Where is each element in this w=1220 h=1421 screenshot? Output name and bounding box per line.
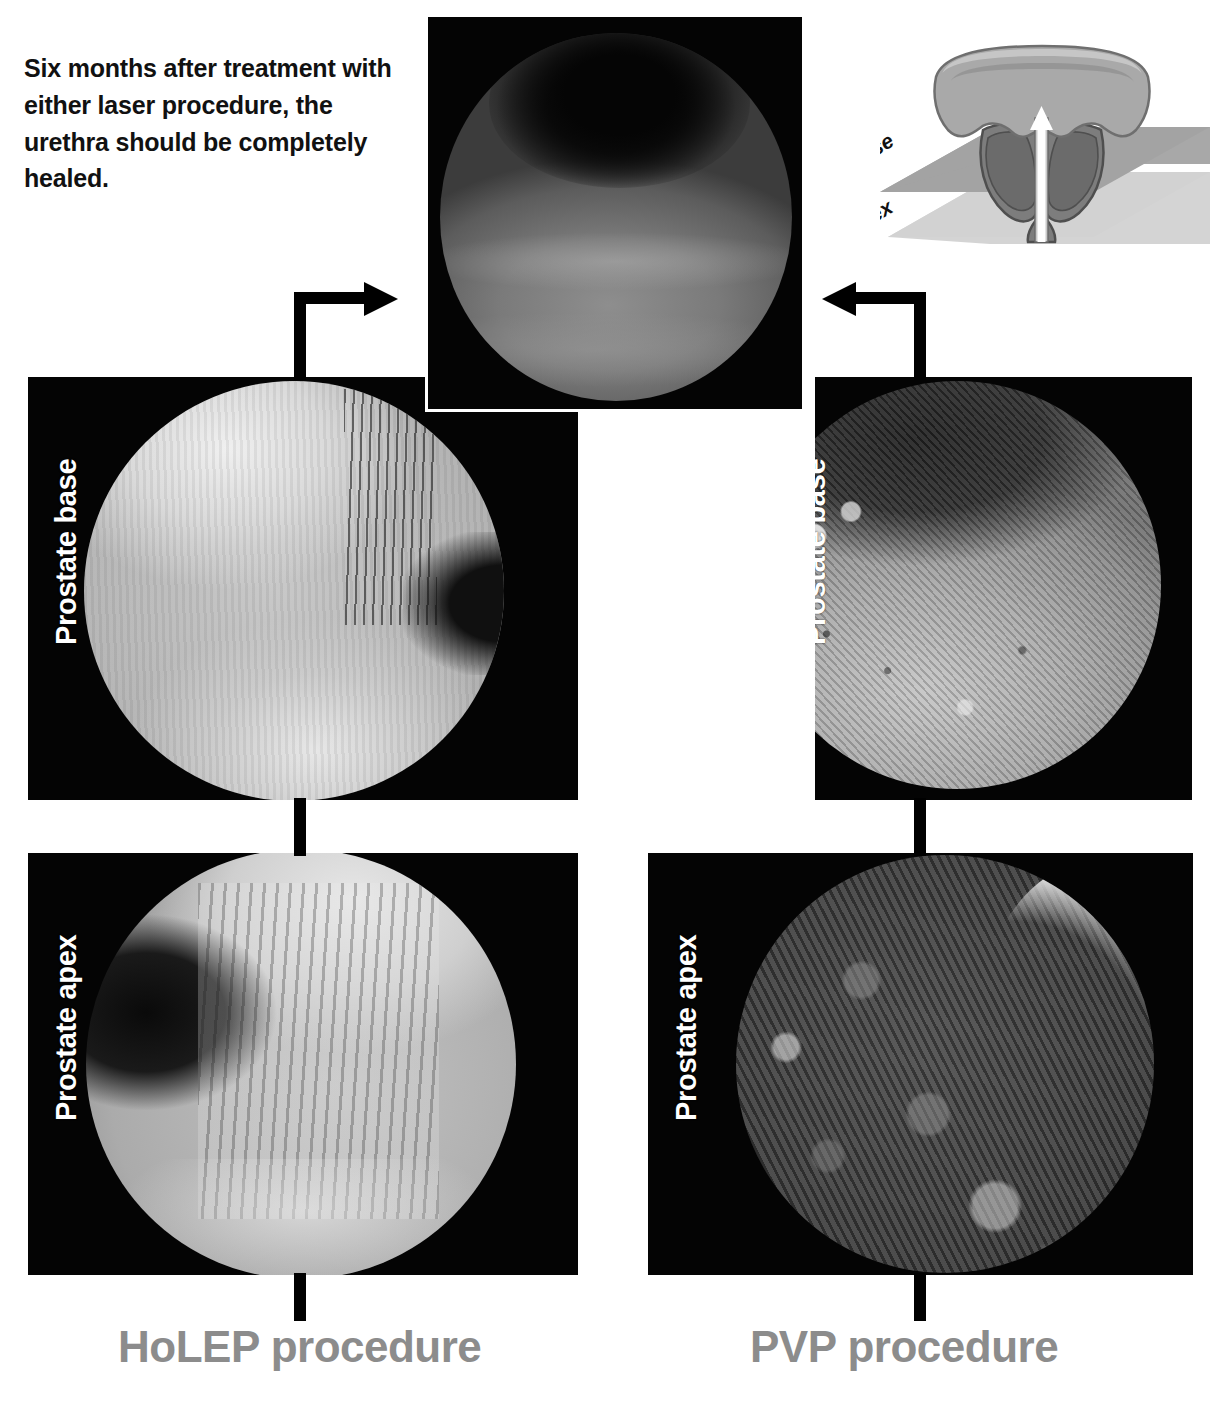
connector-pvp-horizontal xyxy=(856,292,926,304)
procedure-label-holep: HoLEP procedure xyxy=(118,1322,481,1372)
connector-pvp-apex-to-label xyxy=(914,1273,926,1321)
panel-pvp-prostate-base: Prostate base xyxy=(815,377,1192,800)
connector-holep-apex-to-label xyxy=(294,1273,306,1321)
connector-holep-horizontal xyxy=(294,292,372,304)
endoscopic-image-healed-urethra xyxy=(440,33,792,401)
figure-caption: Six months after treatment with either l… xyxy=(24,50,424,197)
procedure-label-pvp: PVP procedure xyxy=(750,1322,1058,1372)
prostate-anatomy-diagram: Base Apex xyxy=(880,22,1210,292)
panel-holep-prostate-apex: Prostate apex xyxy=(28,853,578,1275)
tissue-bright-base xyxy=(120,1159,490,1275)
endoscopic-image-pvp-apex xyxy=(736,855,1154,1273)
panel-label-holep-base: Prostate base xyxy=(50,459,83,645)
panel-label-pvp-apex: Prostate apex xyxy=(670,935,703,1121)
tissue-band-lower xyxy=(440,313,792,387)
panel-label-pvp-base: Prostate base xyxy=(815,459,832,645)
connector-holep-arrowhead xyxy=(364,282,398,316)
tissue-band-upper xyxy=(440,232,792,291)
connector-holep-base-to-apex xyxy=(294,798,306,856)
lumen-notch xyxy=(403,532,504,675)
panel-label-holep-apex: Prostate apex xyxy=(50,935,83,1121)
connector-pvp-arrowhead xyxy=(822,282,856,316)
endoscopic-image-pvp-base xyxy=(815,381,1161,789)
tissue-speckle xyxy=(815,381,1161,789)
endoscopic-image-holep-base xyxy=(84,381,504,800)
connector-pvp-vertical xyxy=(914,298,926,380)
connector-holep-vertical xyxy=(294,298,306,380)
lumen-shadow xyxy=(489,33,749,188)
panel-healed-urethra xyxy=(425,14,805,412)
endoscopic-image-holep-apex xyxy=(86,853,516,1275)
base-plane-label: Base xyxy=(880,128,898,173)
panel-holep-prostate-base: Prostate base xyxy=(28,377,578,800)
panel-pvp-prostate-apex: Prostate apex xyxy=(648,853,1193,1275)
connector-pvp-base-to-apex xyxy=(914,798,926,856)
